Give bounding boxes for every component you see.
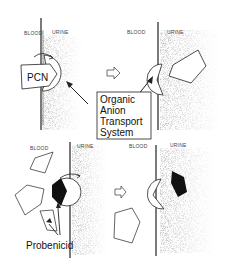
urine-label: URINE — [170, 142, 187, 148]
urine-label: URINE — [52, 29, 69, 35]
blood-label: BLOOD — [129, 143, 148, 149]
pcn-label: PCN — [27, 72, 48, 83]
callout-line-3: Transport — [100, 116, 143, 127]
free-pcn-icon — [30, 152, 53, 173]
callout-line-1: Organic — [100, 94, 135, 105]
blood-label: BLOOD — [30, 145, 49, 151]
panel-bottom-left: BLOOD URINE Probenicid — [15, 142, 107, 258]
blood-label: BLOOD — [24, 30, 43, 36]
urine-label: URINE — [77, 143, 94, 149]
next-step-arrow-icon — [115, 186, 126, 198]
urine-label: URINE — [167, 29, 184, 35]
panel-top-left: BLOOD URINE PCN — [21, 18, 82, 130]
probenecid-label: Probenicid — [26, 240, 73, 251]
free-pcn-icon — [15, 185, 44, 215]
callout-line-2: Anion — [100, 105, 126, 116]
blood-label: BLOOD — [127, 29, 146, 35]
transport-diagram: BLOOD URINE PCN BLOOD URINE Organic Anio… — [0, 0, 227, 266]
urine-stipple — [160, 148, 215, 253]
panel-bottom-right: BLOOD URINE — [114, 142, 215, 256]
next-step-arrow-icon — [107, 67, 120, 79]
callout-line-4: System — [100, 127, 133, 138]
free-pcn-icon — [114, 208, 140, 243]
label-arrow — [58, 208, 60, 235]
